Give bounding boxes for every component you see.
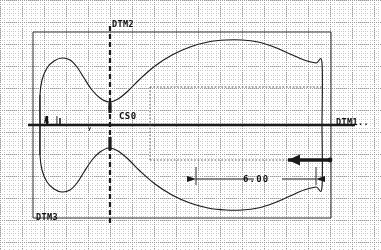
cad-drawing-viewport: DTM2 DTM1.. DTM3 CS0 x y A_| 6.00 [0, 0, 381, 250]
profile-geometry [0, 0, 381, 250]
